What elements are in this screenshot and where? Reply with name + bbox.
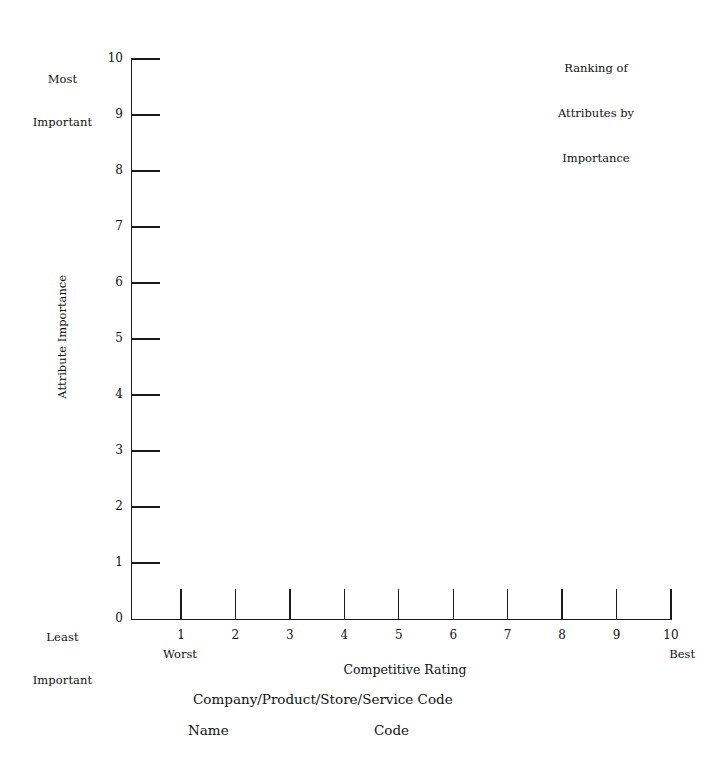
y-tick-label-7: 7 bbox=[99, 219, 123, 233]
y-tick-label-0: 0 bbox=[99, 611, 123, 625]
x-tick-mark-3 bbox=[289, 589, 290, 619]
x-tick-mark-5 bbox=[398, 589, 399, 619]
y-tick-mark-7 bbox=[131, 226, 160, 227]
y-tick-label-5: 5 bbox=[99, 331, 123, 345]
x-tick-label-8: 8 bbox=[547, 628, 577, 642]
code-column-heading: Code bbox=[374, 723, 409, 739]
x-tick-mark-7 bbox=[507, 589, 508, 619]
x-tick-mark-2 bbox=[235, 589, 236, 619]
name-column-heading: Name bbox=[188, 723, 229, 739]
x-axis-left-caption: Worst bbox=[163, 648, 197, 662]
worksheet-page: Ranking of Attributes by Importance Most… bbox=[0, 0, 722, 783]
y-tick-mark-9 bbox=[131, 114, 160, 115]
x-tick-mark-6 bbox=[453, 589, 454, 619]
y-tick-label-2: 2 bbox=[99, 499, 123, 513]
y-tick-mark-10 bbox=[131, 58, 160, 59]
y-tick-label-10: 10 bbox=[99, 51, 123, 65]
x-tick-mark-8 bbox=[561, 589, 562, 619]
y-tick-mark-6 bbox=[131, 282, 160, 283]
y-tick-mark-2 bbox=[131, 506, 160, 507]
x-axis-title: Competitive Rating bbox=[305, 663, 505, 678]
y-tick-label-6: 6 bbox=[99, 275, 123, 289]
y-tick-mark-4 bbox=[131, 394, 160, 395]
x-tick-label-4: 4 bbox=[329, 628, 359, 642]
x-tick-label-9: 9 bbox=[602, 628, 632, 642]
y-axis-title: Attribute Importance bbox=[56, 257, 70, 417]
x-tick-mark-4 bbox=[344, 589, 345, 619]
y-tick-label-4: 4 bbox=[99, 387, 123, 401]
x-tick-label-3: 3 bbox=[275, 628, 305, 642]
x-tick-label-6: 6 bbox=[438, 628, 468, 642]
y-tick-mark-8 bbox=[131, 170, 160, 171]
x-tick-mark-1 bbox=[180, 589, 181, 619]
x-tick-mark-10 bbox=[670, 589, 671, 619]
x-tick-label-5: 5 bbox=[384, 628, 414, 642]
x-tick-label-1: 1 bbox=[166, 628, 196, 642]
y-tick-mark-1 bbox=[131, 562, 160, 563]
x-tick-mark-9 bbox=[616, 589, 617, 619]
x-tick-label-7: 7 bbox=[493, 628, 523, 642]
x-axis-right-caption: Best bbox=[655, 648, 695, 662]
y-tick-mark-3 bbox=[131, 450, 160, 451]
x-tick-label-2: 2 bbox=[220, 628, 250, 642]
y-tick-label-1: 1 bbox=[99, 555, 123, 569]
y-tick-mark-5 bbox=[131, 338, 160, 339]
code-key-heading: Company/Product/Store/Service Code bbox=[193, 692, 453, 708]
x-axis-line bbox=[131, 619, 672, 620]
x-tick-label-10: 10 bbox=[656, 628, 686, 642]
y-tick-label-8: 8 bbox=[99, 163, 123, 177]
y-tick-label-9: 9 bbox=[99, 107, 123, 121]
y-tick-label-3: 3 bbox=[99, 443, 123, 457]
